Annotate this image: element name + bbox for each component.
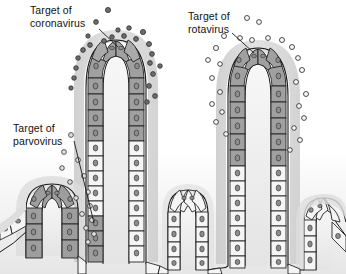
label-target-of-rotavirus: Target of rotavirus: [188, 10, 230, 35]
mid-villus-core: [180, 204, 196, 270]
left-crypt: [26, 184, 78, 258]
right-villus: [228, 48, 288, 268]
figure-canvas: Target of coronavirus Target of rotaviru…: [0, 0, 346, 274]
label-target-of-parvovirus: Target of parvovirus: [13, 122, 62, 147]
mid-villus: [168, 190, 208, 270]
left-villus-core: [103, 56, 129, 264]
right-villus-core: [245, 64, 271, 266]
left-villus: [86, 40, 146, 264]
label-target-of-coronavirus: Target of coronavirus: [30, 4, 85, 29]
